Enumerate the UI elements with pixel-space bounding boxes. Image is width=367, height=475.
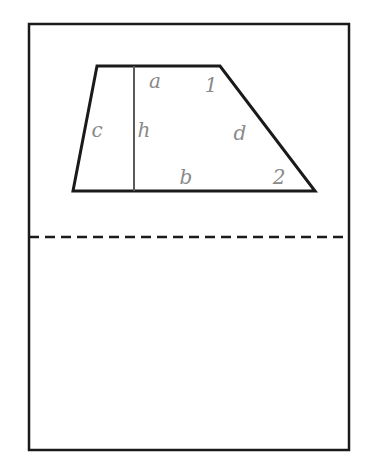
label-c: c [91,118,102,142]
label-angle-2: 2 [272,165,286,189]
label-a: a [149,69,161,93]
label-d: d [234,121,247,145]
trapezoid-figure: a 1 c h d b 2 [0,0,367,475]
label-b: b [180,165,193,189]
label-angle-1: 1 [205,73,218,97]
diagram-canvas: a 1 c h d b 2 [0,0,367,475]
label-h: h [138,118,151,142]
